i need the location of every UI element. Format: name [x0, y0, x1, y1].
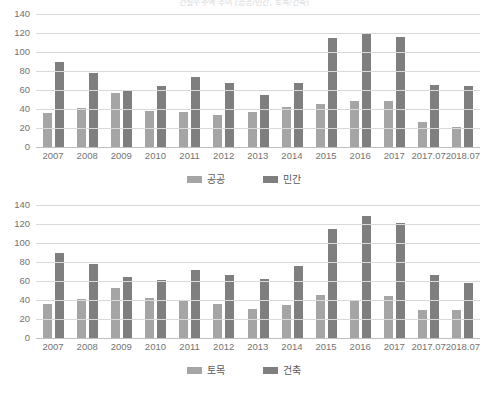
gridline — [36, 71, 480, 72]
x-axis-tick-label: 2013 — [241, 150, 275, 161]
x-axis-tick-label: 2007 — [36, 341, 70, 352]
y-axis-tick-label: 0 — [25, 142, 30, 152]
plot-area — [36, 14, 480, 147]
x-axis-tick-label: 2012 — [207, 150, 241, 161]
x-axis-tick-label: 2016 — [343, 341, 377, 352]
bar[interactable] — [452, 127, 461, 147]
bar[interactable] — [294, 266, 303, 338]
bar[interactable] — [464, 283, 473, 338]
y-axis-tick-label: 40 — [19, 104, 30, 114]
bar[interactable] — [157, 86, 166, 147]
legend-swatch-icon — [263, 176, 278, 183]
chart-civil-building: 140120100806040200 200720082009201020112… — [0, 205, 488, 396]
x-axis-tick-label: 2014 — [275, 341, 309, 352]
bar[interactable] — [123, 91, 132, 147]
bar[interactable] — [418, 122, 427, 147]
x-axis-tick-label: 2016 — [343, 150, 377, 161]
bar[interactable] — [55, 253, 64, 339]
legend-swatch-icon — [187, 367, 202, 374]
x-axis-tick-label: 2018.07 — [446, 150, 480, 161]
bar[interactable] — [464, 86, 473, 147]
legend-label: 공공 — [207, 174, 225, 185]
bar[interactable] — [111, 288, 120, 338]
bar[interactable] — [396, 37, 405, 147]
bar[interactable] — [179, 112, 188, 147]
x-axis-labels: 2007200820092010201120122013201420152016… — [36, 341, 480, 352]
gridline — [36, 224, 480, 225]
legend-swatch-icon — [263, 367, 278, 374]
bar[interactable] — [282, 305, 291, 338]
y-axis-tick-label: 140 — [14, 9, 30, 19]
bar[interactable] — [430, 85, 439, 147]
gridline — [36, 262, 480, 263]
chart-legend: 공공민간 — [0, 174, 488, 185]
bar[interactable] — [248, 112, 257, 147]
bar[interactable] — [430, 275, 439, 338]
x-axis-line — [36, 338, 480, 339]
x-axis-tick-label: 2017 — [377, 341, 411, 352]
bar[interactable] — [213, 115, 222, 147]
bar[interactable] — [43, 113, 52, 147]
gridline — [36, 319, 480, 320]
x-axis-tick-label: 2008 — [70, 150, 104, 161]
y-axis-tick-label: 100 — [14, 47, 30, 57]
bar[interactable] — [328, 229, 337, 338]
y-axis-tick-label: 60 — [19, 85, 30, 95]
gridline — [36, 14, 480, 15]
x-axis-tick-label: 2010 — [138, 341, 172, 352]
bar[interactable] — [225, 275, 234, 338]
bar[interactable] — [452, 310, 461, 339]
x-axis-tick-label: 2015 — [309, 341, 343, 352]
bar[interactable] — [260, 279, 269, 338]
bar[interactable] — [123, 277, 132, 338]
bar[interactable] — [384, 296, 393, 338]
legend-item[interactable]: 공공 — [187, 174, 225, 185]
x-axis-tick-label: 2018.07 — [446, 341, 480, 352]
x-axis-tick-label: 2009 — [104, 341, 138, 352]
x-axis-tick-label: 2013 — [241, 341, 275, 352]
y-axis-tick-label: 60 — [19, 276, 30, 286]
y-axis-tick-label: 140 — [14, 200, 30, 210]
bar[interactable] — [418, 310, 427, 338]
bar[interactable] — [191, 77, 200, 147]
bar[interactable] — [111, 93, 120, 147]
x-axis-tick-label: 2011 — [173, 341, 207, 352]
bar[interactable] — [294, 83, 303, 147]
legend-item[interactable]: 민간 — [263, 174, 301, 185]
x-axis-tick-label: 2015 — [309, 150, 343, 161]
gridline — [36, 205, 480, 206]
y-axis-labels: 140120100806040200 — [0, 205, 34, 338]
legend-label: 건축 — [283, 365, 301, 376]
plot-area-wrapper: 140120100806040200 200720082009201020112… — [0, 205, 482, 350]
chart-legend: 토목건축 — [0, 365, 488, 376]
y-axis-labels: 140120100806040200 — [0, 14, 34, 147]
bar[interactable] — [191, 270, 200, 338]
bar[interactable] — [213, 304, 222, 338]
legend-label: 민간 — [283, 174, 301, 185]
x-axis-tick-label: 2008 — [70, 341, 104, 352]
x-axis-tick-label: 2010 — [138, 150, 172, 161]
bar[interactable] — [328, 38, 337, 147]
legend-swatch-icon — [187, 176, 202, 183]
x-axis-tick-label: 2011 — [173, 150, 207, 161]
legend-item[interactable]: 토목 — [187, 365, 225, 376]
gridline — [36, 300, 480, 301]
gridline — [36, 52, 480, 53]
bar[interactable] — [316, 295, 325, 338]
bar[interactable] — [260, 95, 269, 147]
bar[interactable] — [55, 62, 64, 148]
bar[interactable] — [157, 280, 166, 338]
y-axis-tick-label: 20 — [19, 123, 30, 133]
bar[interactable] — [248, 309, 257, 338]
y-axis-tick-label: 20 — [19, 314, 30, 324]
legend-label: 토목 — [207, 365, 225, 376]
x-axis-tick-label: 2017 — [377, 150, 411, 161]
gridline — [36, 281, 480, 282]
gridline — [36, 90, 480, 91]
bar[interactable] — [225, 83, 234, 147]
bar[interactable] — [43, 304, 52, 338]
x-axis-tick-label: 2009 — [104, 150, 138, 161]
legend-item[interactable]: 건축 — [263, 365, 301, 376]
gridline — [36, 243, 480, 244]
bar[interactable] — [316, 104, 325, 147]
